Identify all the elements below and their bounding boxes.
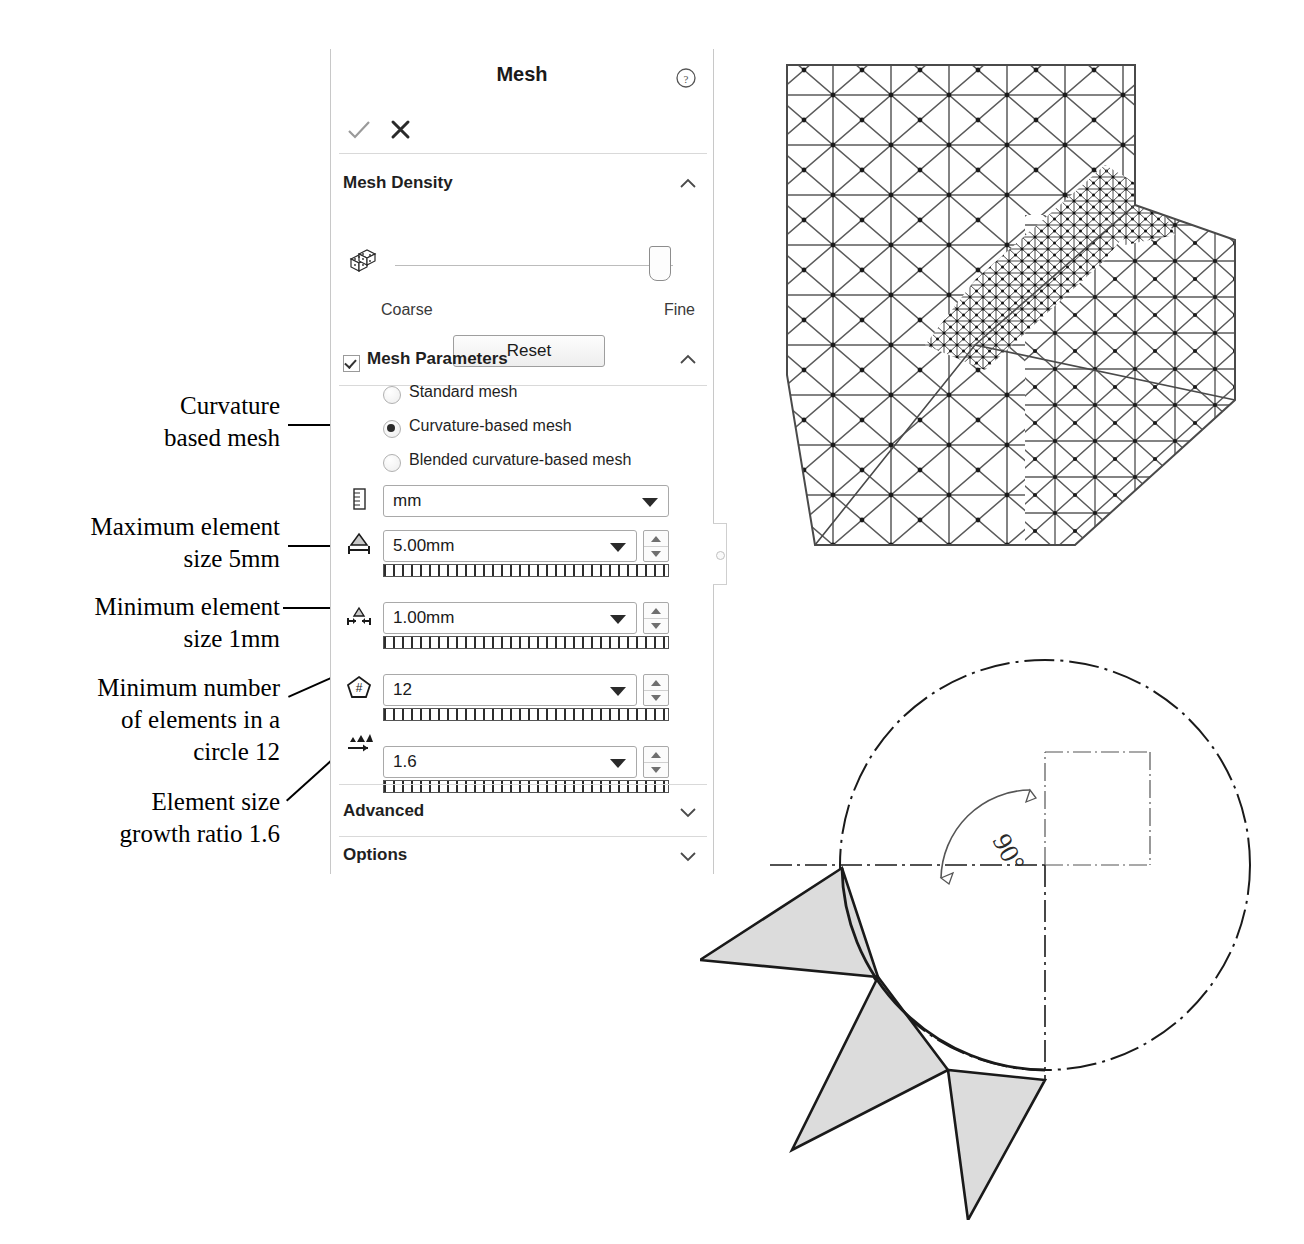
close-icon[interactable] [387, 115, 415, 143]
page-title: Mesh [331, 63, 713, 86]
mesh-blocks-icon [345, 247, 379, 277]
radio-curvature-based-mesh[interactable] [383, 420, 401, 438]
min-element-size-ruler [383, 636, 669, 649]
fea-mesh-figure [775, 45, 1280, 570]
elements-in-circle-value: 12 [393, 680, 412, 700]
chevron-down-icon[interactable] [610, 615, 626, 624]
mesh-density-slider-thumb[interactable] [649, 246, 671, 281]
min-element-size-icon [345, 601, 373, 629]
section-header-advanced[interactable]: Advanced [331, 801, 713, 829]
annotation-line: based mesh [110, 422, 280, 454]
annotation-line: circle 12 [45, 736, 280, 768]
radio-label: Blended curvature-based mesh [409, 451, 631, 469]
elements-in-circle-icon: # [345, 673, 373, 701]
slider-min-label: Coarse [381, 301, 433, 319]
circle-diagram-svg: 90° [700, 640, 1280, 1220]
section-header-mesh-parameters[interactable]: Mesh Parameters [331, 349, 713, 377]
leader-line-min-size [283, 607, 333, 609]
min-element-size-value: 1.00mm [393, 608, 454, 628]
panel-action-bar [331, 109, 713, 152]
growth-ratio-icon [345, 729, 373, 757]
chevron-down-icon[interactable] [679, 849, 697, 863]
check-icon[interactable] [345, 117, 373, 143]
annotation-line: Minimum element [60, 591, 280, 623]
units-combo[interactable]: mm [383, 485, 669, 517]
elements-in-circle-figure: 90° [700, 640, 1280, 1220]
divider [339, 784, 707, 785]
annotation-minimum-elements-in-circle: Minimum number of elements in a circle 1… [45, 672, 280, 768]
angle-label: 90° [987, 829, 1031, 876]
elements-in-circle-combo[interactable]: 12 [383, 674, 637, 706]
annotation-line: size 1mm [60, 623, 280, 655]
chevron-down-icon[interactable] [642, 498, 658, 507]
stepper-up[interactable] [644, 675, 668, 691]
arc-arrow-bottom [941, 873, 953, 884]
max-element-size-icon [345, 529, 373, 557]
svg-text:?: ? [684, 73, 689, 85]
stepper-up[interactable] [644, 531, 668, 547]
annotation-line: Minimum number [45, 672, 280, 704]
annotation-curvature-based-mesh: Curvature based mesh [110, 390, 280, 454]
annotation-line: Element size [60, 786, 280, 818]
chevron-up-icon[interactable] [679, 353, 697, 367]
triangle-3 [948, 1070, 1045, 1220]
panel-resize-tab[interactable] [713, 523, 727, 585]
radio-row-blended-curvature-based-mesh[interactable]: Blended curvature-based mesh [331, 451, 713, 477]
annotation-maximum-element-size: Maximum element size 5mm [60, 511, 280, 575]
annotation-line: size 5mm [60, 543, 280, 575]
chevron-up-icon[interactable] [679, 177, 697, 191]
radio-row-standard-mesh[interactable]: Standard mesh [331, 383, 713, 409]
radio-row-curvature-based-mesh[interactable]: Curvature-based mesh [331, 417, 713, 443]
chevron-down-icon[interactable] [610, 759, 626, 768]
stepper-up[interactable] [644, 603, 668, 619]
chevron-down-icon[interactable] [610, 543, 626, 552]
min-element-size-combo[interactable]: 1.00mm [383, 602, 637, 634]
section-title-options: Options [343, 845, 407, 865]
elements-in-circle-stepper[interactable] [643, 674, 669, 706]
units-value: mm [393, 491, 421, 511]
chevron-down-icon[interactable] [679, 805, 697, 819]
growth-ratio-value: 1.6 [393, 752, 417, 772]
min-element-size-stepper[interactable] [643, 602, 669, 634]
divider [339, 153, 707, 154]
radio-standard-mesh[interactable] [383, 386, 401, 404]
svg-text:#: # [356, 681, 363, 695]
annotation-line: Curvature [110, 390, 280, 422]
annotation-minimum-element-size: Minimum element size 1mm [60, 591, 280, 655]
fea-mesh-svg [775, 45, 1280, 570]
radio-blended-curvature-based-mesh[interactable] [383, 454, 401, 472]
stepper-down[interactable] [644, 691, 668, 706]
growth-ratio-combo[interactable]: 1.6 [383, 746, 637, 778]
max-element-size-ruler [383, 564, 669, 577]
arc-arrow-top [1026, 790, 1036, 802]
annotation-line: Maximum element [60, 511, 280, 543]
leader-line-elements-circle [288, 676, 334, 698]
max-element-size-value: 5.00mm [393, 536, 454, 556]
growth-ratio-stepper[interactable] [643, 746, 669, 778]
max-element-size-combo[interactable]: 5.00mm [383, 530, 637, 562]
stepper-down[interactable] [644, 763, 668, 778]
radio-label: Standard mesh [409, 383, 518, 401]
annotation-element-growth-ratio: Element size growth ratio 1.6 [60, 786, 280, 850]
chevron-down-icon[interactable] [610, 687, 626, 696]
stepper-down[interactable] [644, 547, 668, 562]
stepper-up[interactable] [644, 747, 668, 763]
help-circle-icon[interactable]: ? [675, 67, 697, 89]
mesh-density-slider-track[interactable] [395, 265, 673, 266]
growth-ratio-ruler [383, 780, 669, 793]
section-title-advanced: Advanced [343, 801, 424, 821]
ruler-units-icon [345, 485, 373, 513]
annotation-line: of elements in a [45, 704, 280, 736]
elements-in-circle-ruler [383, 708, 669, 721]
leader-line-max-size [288, 545, 334, 547]
section-header-mesh-density[interactable]: Mesh Density [331, 173, 713, 201]
slider-max-label: Fine [664, 301, 695, 319]
triangle-2 [792, 977, 948, 1150]
section-header-options[interactable]: Options [331, 845, 713, 873]
divider [339, 836, 707, 837]
stepper-down[interactable] [644, 619, 668, 634]
radio-label: Curvature-based mesh [409, 417, 572, 435]
max-element-size-stepper[interactable] [643, 530, 669, 562]
panel-tab-dot [716, 551, 725, 560]
annotation-line: growth ratio 1.6 [60, 818, 280, 850]
